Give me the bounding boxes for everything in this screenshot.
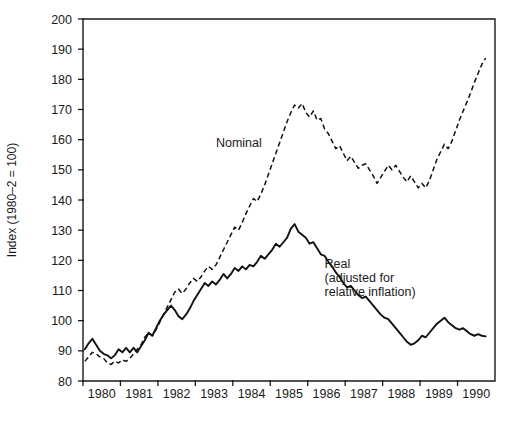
- chart-container: 8090100110120130140150160170180190200 19…: [0, 0, 512, 423]
- y-tick-label: 150: [51, 163, 72, 177]
- series-annotation: (adjusted for: [325, 271, 394, 285]
- series-annotations: NominalReal(adjusted forrelative inflati…: [216, 136, 416, 299]
- y-axis-title-group: Index (1980–2 = 100): [5, 143, 19, 257]
- y-tick-label: 130: [51, 224, 72, 238]
- y-tick-label: 180: [51, 73, 72, 87]
- y-tick-label: 200: [51, 13, 72, 27]
- x-tick-label: 1988: [387, 387, 415, 401]
- axis-frame: [83, 19, 495, 381]
- x-tick-label: 1987: [350, 387, 378, 401]
- plot-frame: [83, 19, 495, 381]
- y-tick-label: 110: [52, 284, 72, 298]
- y-tick-label: 120: [51, 254, 72, 268]
- x-tick-label: 1981: [125, 387, 153, 401]
- x-tick-label: 1985: [275, 387, 303, 401]
- y-tick-label: 90: [58, 344, 72, 358]
- y-axis-title: Index (1980–2 = 100): [5, 143, 19, 257]
- x-tick-label: 1982: [163, 387, 191, 401]
- series-annotation: Nominal: [216, 136, 262, 150]
- series-line-real: [85, 224, 486, 358]
- y-tick-label: 100: [51, 314, 72, 328]
- x-tick-label: 1984: [238, 387, 266, 401]
- y-tick-label: 160: [51, 133, 72, 147]
- x-tick-label: 1989: [425, 387, 453, 401]
- x-axis-tick-labels: 1980198119821983198419851986198719881989…: [88, 387, 490, 401]
- y-tick-label: 190: [51, 43, 72, 57]
- series-lines: [85, 58, 486, 364]
- y-axis-tick-labels: 8090100110120130140150160170180190200: [51, 13, 72, 389]
- x-tick-label: 1986: [313, 387, 341, 401]
- series-annotation: relative inflation): [325, 285, 416, 299]
- x-tick-label: 1990: [462, 387, 490, 401]
- y-tick-label: 170: [51, 103, 72, 117]
- y-tick-label: 80: [58, 375, 72, 389]
- series-annotation: Real: [325, 257, 351, 271]
- y-tick-label: 140: [51, 194, 72, 208]
- series-line-nominal: [85, 58, 486, 364]
- x-tick-label: 1983: [200, 387, 228, 401]
- x-tick-label: 1980: [88, 387, 116, 401]
- index-line-chart: 8090100110120130140150160170180190200 19…: [0, 0, 512, 423]
